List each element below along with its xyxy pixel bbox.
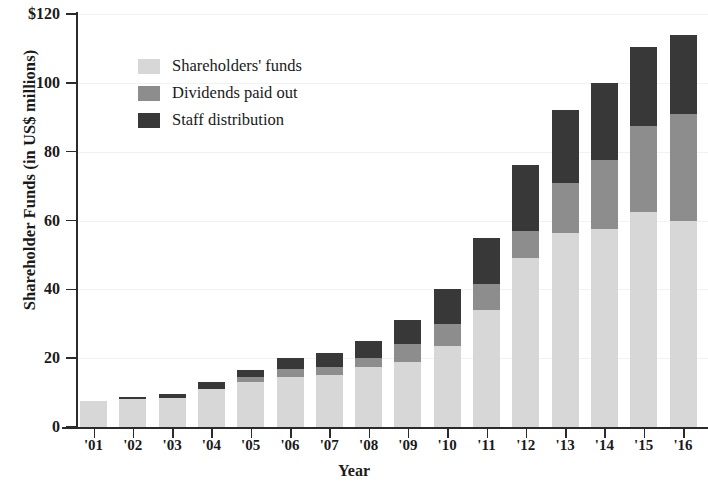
bar-segment <box>552 233 579 427</box>
y-axis-title: Shareholder Funds (in US$ millions) <box>20 0 40 360</box>
x-tick-label: '14 <box>582 437 626 454</box>
bar-segment <box>670 221 697 428</box>
bar-segment <box>394 344 421 361</box>
legend-swatch-icon <box>138 59 160 74</box>
y-tick-label: 60 <box>0 213 60 229</box>
bar-11[interactable] <box>473 238 500 427</box>
bar-segment <box>670 114 697 221</box>
bar-segment <box>277 358 304 368</box>
bar-01[interactable] <box>80 401 107 427</box>
bar-segment <box>670 35 697 114</box>
x-tick-label: '15 <box>622 437 666 454</box>
y-tick-label: $120 <box>0 6 60 22</box>
bar-segment <box>355 341 382 358</box>
bar-segment <box>198 389 225 427</box>
bar-02[interactable] <box>119 397 146 427</box>
bar-segment <box>237 382 264 427</box>
bar-segment <box>512 231 539 259</box>
bar-segment <box>394 320 421 344</box>
bar-segment <box>277 369 304 378</box>
bar-12[interactable] <box>512 165 539 427</box>
bar-16[interactable] <box>670 35 697 427</box>
bar-segment <box>473 310 500 427</box>
x-tick-label: '08 <box>347 437 391 454</box>
bar-08[interactable] <box>355 341 382 427</box>
bar-segment <box>316 375 343 427</box>
legend: Shareholders' fundsDividends paid outSta… <box>138 54 302 135</box>
bar-06[interactable] <box>277 358 304 427</box>
x-tick-label: '02 <box>111 437 155 454</box>
x-tick-label: '12 <box>504 437 548 454</box>
bar-segment <box>119 399 146 427</box>
bar-segment <box>591 160 618 229</box>
chart-canvas: Shareholder Funds (in US$ millions) Year… <box>0 0 708 484</box>
legend-label: Staff distribution <box>172 110 284 130</box>
x-tick-label: '05 <box>229 437 273 454</box>
x-tick-label: '13 <box>543 437 587 454</box>
legend-swatch-icon <box>138 86 160 101</box>
bar-segment <box>80 401 107 427</box>
legend-item: Dividends paid out <box>138 81 302 105</box>
x-tick-label: '09 <box>386 437 430 454</box>
x-axis-line <box>62 427 708 429</box>
bar-03[interactable] <box>159 394 186 427</box>
bar-segment <box>512 258 539 427</box>
bar-segment <box>591 229 618 427</box>
bar-segment <box>159 398 186 427</box>
bar-segment <box>434 346 461 427</box>
legend-item: Staff distribution <box>138 108 302 132</box>
bar-segment <box>434 289 461 323</box>
bar-segment <box>552 110 579 182</box>
x-tick-label: '01 <box>72 437 116 454</box>
bar-segment <box>630 212 657 427</box>
bar-segment <box>394 362 421 427</box>
bar-05[interactable] <box>237 370 264 427</box>
y-tick-label: 100 <box>0 75 60 91</box>
bar-segment <box>630 47 657 126</box>
legend-item: Shareholders' funds <box>138 54 302 78</box>
x-axis-title: Year <box>0 462 708 480</box>
legend-label: Dividends paid out <box>172 83 298 103</box>
bar-segment <box>355 358 382 367</box>
x-tick-label: '11 <box>465 437 509 454</box>
x-tick-label: '10 <box>425 437 469 454</box>
bar-segment <box>316 353 343 367</box>
x-tick-label: '16 <box>661 437 705 454</box>
y-tick-label: 20 <box>0 350 60 366</box>
x-tick-label: '03 <box>150 437 194 454</box>
bar-07[interactable] <box>316 353 343 427</box>
bar-04[interactable] <box>198 382 225 427</box>
bar-segment <box>316 367 343 376</box>
y-tick-label: 40 <box>0 281 60 297</box>
bar-segment <box>473 238 500 284</box>
x-tick-label: '06 <box>268 437 312 454</box>
y-tick-label: 80 <box>0 144 60 160</box>
x-tick-label: '07 <box>307 437 351 454</box>
bar-segment <box>198 382 225 389</box>
bar-segment <box>355 367 382 427</box>
bar-segment <box>473 284 500 310</box>
legend-label: Shareholders' funds <box>172 56 302 76</box>
bar-14[interactable] <box>591 83 618 427</box>
bar-segment <box>552 183 579 233</box>
bar-13[interactable] <box>552 110 579 427</box>
bar-segment <box>277 377 304 427</box>
legend-swatch-icon <box>138 113 160 128</box>
bar-segment <box>630 126 657 212</box>
y-tick-label: 0 <box>0 419 60 435</box>
bar-15[interactable] <box>630 47 657 427</box>
bar-segment <box>237 370 264 377</box>
bar-segment <box>434 324 461 346</box>
x-tick-label: '04 <box>189 437 233 454</box>
bar-segment <box>591 83 618 160</box>
bar-10[interactable] <box>434 289 461 427</box>
bar-segment <box>512 165 539 230</box>
bar-09[interactable] <box>394 320 421 427</box>
